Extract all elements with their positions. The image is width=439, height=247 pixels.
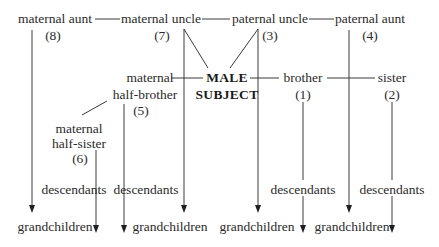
node-half-brother-line1: maternal	[126, 71, 173, 85]
node-sister-number: (2)	[384, 88, 400, 102]
node-paternal-aunt: paternal aunt	[335, 12, 405, 26]
node-half-brother-line2: half-brother	[113, 88, 177, 102]
arrow-paternal-uncle	[255, 205, 261, 213]
grandchildren-label: grandchildren	[133, 220, 208, 234]
descendants-label: descendants	[359, 183, 424, 197]
node-maternal-uncle: maternal uncle	[121, 12, 201, 26]
arrow-brother	[300, 225, 306, 233]
grandchildren-label: grandchildren	[315, 220, 390, 234]
node-paternal-uncle-number: (3)	[262, 29, 278, 43]
node-half-sister-number: (6)	[72, 152, 88, 166]
kinship-diagram: maternal aunt (8) maternal uncle (7) pat…	[0, 0, 439, 247]
node-subject-line1: MALE	[206, 71, 248, 85]
grandchildren-label: grandchildren	[18, 220, 93, 234]
node-brother: brother	[284, 71, 323, 85]
node-maternal-uncle-number: (7)	[154, 29, 170, 43]
arrow-half-sister	[93, 225, 99, 233]
node-half-sister-line1: maternal	[55, 122, 102, 136]
descendants-label: descendants	[270, 183, 335, 197]
node-maternal-aunt: maternal aunt	[18, 12, 92, 26]
arrow-half-brother	[121, 225, 127, 233]
node-paternal-aunt-number: (4)	[362, 29, 378, 43]
grandchildren-label: grandchildren	[220, 220, 295, 234]
diag-paternal-uncle-subject	[230, 29, 258, 68]
node-half-brother-number: (5)	[133, 104, 149, 118]
node-half-sister-line2: half-sister	[52, 137, 106, 151]
node-paternal-uncle: paternal uncle	[232, 12, 308, 26]
arrow-sister	[389, 225, 395, 233]
node-maternal-aunt-number: (8)	[45, 29, 61, 43]
diag-maternal-uncle-subject	[184, 29, 208, 68]
arrow-paternal-aunt	[346, 205, 352, 213]
node-brother-number: (1)	[295, 88, 311, 102]
diag-halfbrother-halfsister	[82, 101, 107, 115]
arrow-maternal-aunt	[29, 205, 35, 213]
arrow-maternal-uncle	[181, 205, 187, 213]
descendants-label: descendants	[113, 183, 178, 197]
descendants-label: descendants	[41, 183, 106, 197]
node-subject-line2: SUBJECT	[196, 88, 259, 102]
node-sister: sister	[378, 71, 407, 85]
